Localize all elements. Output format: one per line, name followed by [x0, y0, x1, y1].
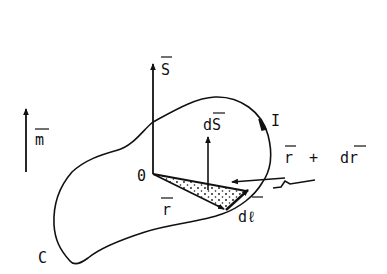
diagram-canvas: S m dS 0 r r + dr dℓ I C [0, 0, 387, 274]
svg-text:dr: dr [340, 149, 358, 167]
svg-text:dℓ: dℓ [238, 208, 256, 226]
svg-text:r: r [162, 201, 171, 219]
label-r-plus-dr: r + dr [284, 146, 366, 167]
leader-arrow [232, 178, 285, 182]
label-m: m [35, 129, 49, 149]
svg-text:r: r [284, 149, 293, 167]
label-dl: dℓ [238, 197, 263, 226]
leader-line-zigzag [273, 180, 315, 188]
label-origin: 0 [137, 167, 146, 185]
svg-text:S: S [161, 61, 170, 79]
label-ds: dS [203, 113, 225, 134]
loop-curve-c [54, 97, 271, 264]
svg-text:m: m [35, 131, 44, 149]
label-current-i: I [271, 112, 280, 130]
label-r: r [161, 198, 173, 219]
label-s: S [161, 57, 172, 79]
svg-text:+: + [309, 149, 318, 167]
diagram-svg: S m dS 0 r r + dr dℓ I C [0, 0, 387, 274]
svg-text:dS: dS [203, 116, 221, 134]
label-curve-c: C [38, 249, 47, 267]
